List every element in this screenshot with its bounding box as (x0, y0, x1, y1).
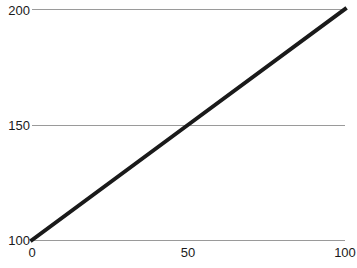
data-series-line (32, 9, 345, 240)
y-axis-ticks: 200 150 100 (0, 0, 30, 268)
chart-title (0, 0, 357, 3)
chart-figure: 200 150 100 0 50 100 (0, 0, 357, 268)
x-tick-label-100: 100 (315, 246, 357, 259)
x-tick-label-0: 0 (2, 246, 62, 259)
y-tick-label-200: 200 (0, 4, 30, 17)
plot-area (32, 9, 345, 240)
gridline-100 (32, 240, 345, 241)
x-tick-label-50: 50 (158, 246, 218, 259)
series-polyline (32, 9, 345, 240)
y-tick-label-150: 150 (0, 119, 30, 132)
